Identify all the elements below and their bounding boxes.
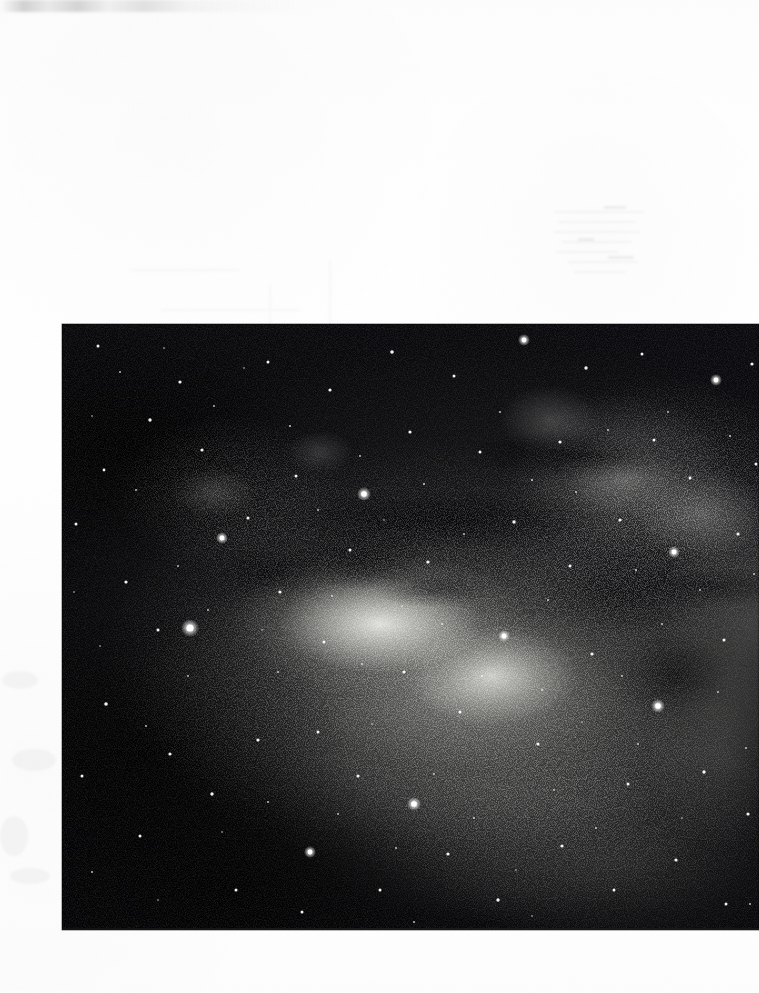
milky-way-band-luminance xyxy=(62,324,759,930)
astrophotograph-plate xyxy=(62,324,759,930)
plate-bottom-scan-line xyxy=(62,928,759,930)
stellar-granulation-texture xyxy=(62,324,759,930)
resolved-point-stars xyxy=(62,324,759,930)
plate-border xyxy=(62,324,759,930)
scanned-page xyxy=(0,0,759,993)
dark-nebula-dust-lanes xyxy=(62,324,759,930)
plate-caption xyxy=(62,940,759,960)
